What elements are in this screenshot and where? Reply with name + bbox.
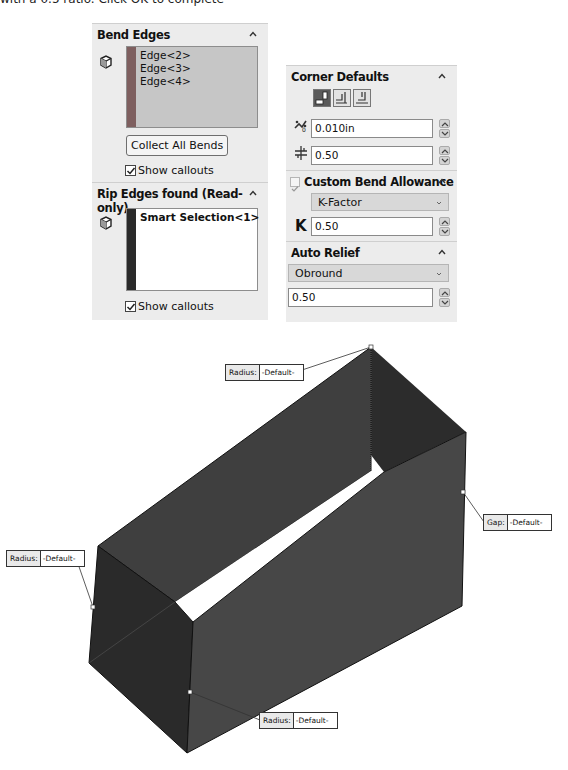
spin-up-icon[interactable] [439, 119, 450, 128]
list-item[interactable]: Edge<2> [140, 49, 191, 62]
show-callouts-label: Show callouts [138, 164, 214, 177]
auto-relief-title: Auto Relief [291, 246, 360, 260]
sheet-metal-box-model[interactable] [0, 330, 568, 770]
edge-selection-cube-icon [98, 54, 114, 70]
relief-ratio-input[interactable]: 0.50 [288, 288, 433, 307]
callout-label: Radius: [260, 713, 294, 728]
collapse-chevron-icon[interactable] [437, 247, 447, 257]
chevron-down-icon [435, 268, 443, 281]
relief-ratio-spinner[interactable] [439, 288, 450, 307]
collapse-chevron-icon[interactable] [437, 71, 447, 81]
overlap-corner-button[interactable] [333, 89, 351, 107]
rip-edges-list[interactable]: Smart Selection<1> [126, 208, 258, 291]
custom-bend-allowance-header[interactable]: Custom Bend Allowance [286, 170, 457, 192]
instruction-text: with a 0.5 ratio. Click OK to complete [0, 0, 224, 6]
collapse-chevron-icon[interactable] [437, 176, 447, 186]
rip-show-callouts-checkbox[interactable]: Show callouts [125, 300, 214, 313]
spin-down-icon[interactable] [439, 298, 450, 307]
k-factor-input[interactable]: 0.50 [311, 217, 433, 236]
left-property-panel: Bend Edges Edge<2> Edge<3> Edge<4> Colle… [92, 23, 268, 320]
spin-up-icon[interactable] [439, 288, 450, 297]
checkbox-checked[interactable] [125, 301, 136, 312]
graphics-viewport[interactable]: Radius: -Default- Gap: -Default- Radius:… [0, 330, 568, 770]
rip-selection-cube-icon [98, 215, 114, 231]
leader-line [463, 492, 484, 522]
gap-distance-input[interactable]: 0.010in [311, 119, 433, 138]
spin-up-icon[interactable] [439, 146, 450, 155]
checkbox-checked[interactable] [125, 165, 136, 176]
auto-relief-type-dropdown[interactable]: Obround [288, 264, 449, 282]
instruction-text-clipped: with a 0.5 ratio. Click OK to complete [0, 0, 568, 6]
callout-label: Radius: [226, 365, 260, 380]
gap-distance-icon: 0 [293, 117, 309, 133]
callout-value[interactable]: -Default- [508, 515, 551, 530]
chevron-down-icon [435, 197, 443, 210]
bend-show-callouts-checkbox[interactable]: Show callouts [125, 164, 214, 177]
overlap-ratio-input[interactable]: 0.50 [311, 146, 433, 165]
gap-callout-right[interactable]: Gap: -Default- [483, 514, 552, 531]
collapse-chevron-icon[interactable] [248, 188, 258, 198]
bend-allowance-type-dropdown[interactable]: K-Factor [311, 193, 449, 211]
selection-color-stripe [127, 47, 136, 127]
selection-color-stripe [127, 209, 136, 290]
overlap-ratio-icon [293, 145, 309, 161]
auto-relief-header[interactable]: Auto Relief [286, 241, 457, 263]
underlap-corner-button[interactable] [353, 89, 371, 107]
radius-callout-bottom[interactable]: Radius: -Default- [259, 712, 338, 729]
bend-edges-title: Bend Edges [97, 28, 170, 42]
radius-callout-left[interactable]: Radius: -Default- [6, 550, 85, 567]
collect-all-bends-button[interactable]: Collect All Bends [126, 135, 228, 156]
callout-label: Radius: [7, 551, 41, 566]
callout-value[interactable]: -Default- [294, 713, 337, 728]
bend-edges-header[interactable]: Bend Edges [92, 23, 268, 45]
spin-down-icon[interactable] [439, 129, 450, 138]
spin-up-icon[interactable] [439, 217, 450, 226]
callout-anchor-handle[interactable] [461, 490, 465, 494]
gap-distance-spinner[interactable] [439, 119, 450, 138]
show-callouts-label: Show callouts [138, 300, 214, 313]
custom-bend-allowance-title: Custom Bend Allowance [304, 175, 453, 189]
corner-defaults-header[interactable]: Corner Defaults [286, 65, 457, 87]
callout-anchor-handle[interactable] [369, 345, 373, 349]
k-factor-label: K [295, 217, 307, 235]
callout-anchor-handle[interactable] [188, 690, 192, 694]
dropdown-selected-value: Obround [295, 267, 343, 280]
spin-down-icon[interactable] [439, 227, 450, 236]
list-item[interactable]: Edge<4> [140, 75, 191, 88]
k-factor-spinner[interactable] [439, 217, 450, 236]
dropdown-selected-value: K-Factor [318, 196, 362, 209]
radius-callout-top[interactable]: Radius: -Default- [225, 364, 304, 381]
right-property-panel: Corner Defaults 0 0.010in 0.50 Custom Be… [286, 65, 457, 322]
rip-edges-header[interactable]: Rip Edges found (Read-only) [92, 182, 268, 204]
callout-value[interactable]: -Default- [41, 551, 84, 566]
overlap-ratio-spinner[interactable] [439, 146, 450, 165]
spin-down-icon[interactable] [439, 156, 450, 165]
corner-defaults-title: Corner Defaults [291, 70, 389, 84]
callout-value[interactable]: -Default- [260, 365, 303, 380]
callout-label: Gap: [484, 515, 508, 530]
svg-text:0: 0 [302, 126, 306, 133]
open-corner-button[interactable] [313, 89, 331, 107]
list-item[interactable]: Edge<3> [140, 62, 191, 75]
list-item[interactable]: Smart Selection<1> [140, 211, 259, 224]
collapse-chevron-icon[interactable] [248, 29, 258, 39]
callout-anchor-handle[interactable] [91, 605, 95, 609]
bend-edges-list[interactable]: Edge<2> Edge<3> Edge<4> [126, 46, 258, 128]
custom-bend-allowance-checkbox[interactable] [290, 177, 300, 187]
